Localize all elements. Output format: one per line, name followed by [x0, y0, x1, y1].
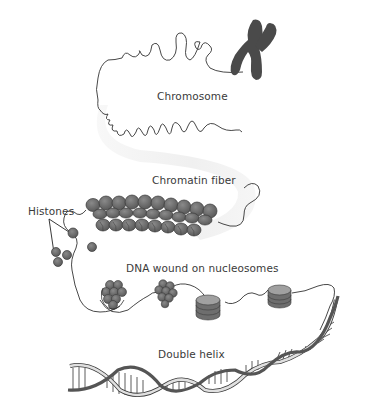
histones-group: [49, 219, 97, 267]
label-histones: Histones: [28, 205, 74, 217]
histone-bead: [63, 251, 72, 260]
histone-bead: [54, 258, 63, 267]
histone-bead: [68, 228, 78, 238]
histone-bead: [88, 243, 97, 252]
histone-bead: [52, 248, 61, 257]
nucleosome-spool-1: [196, 295, 220, 320]
nucleosome-spool-2: [268, 285, 291, 308]
label-nucleosomes: DNA wound on nucleosomes: [126, 262, 279, 274]
fiber-bottom-row: [96, 219, 201, 236]
histones-pointer-lines: [49, 219, 69, 253]
nucleosome-octamer-1: [101, 281, 126, 310]
chromosome-thread: [97, 33, 244, 137]
label-chromatin-fiber: Chromatin fiber: [152, 174, 236, 186]
label-chromosome: Chromosome: [157, 90, 228, 102]
chromatin-fiber: [86, 195, 217, 236]
chromosome-x-icon: [231, 20, 277, 80]
label-double-helix: Double helix: [158, 348, 225, 360]
nucleosome-octamer-2: [155, 280, 177, 308]
